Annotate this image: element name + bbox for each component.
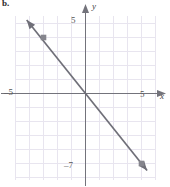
x-axis-tick-right: 5 <box>140 90 145 99</box>
x-axis-tick-left: –5 <box>4 88 13 97</box>
y-axis-arrow <box>82 4 89 13</box>
x-axis-label: x <box>160 92 164 101</box>
y-axis-tick-top: 5 <box>71 16 76 25</box>
y-axis-label: y <box>92 2 96 11</box>
axes <box>1 9 160 186</box>
panel-label: b. <box>2 0 9 8</box>
y-axis-tick-bottom: –7 <box>64 161 73 170</box>
